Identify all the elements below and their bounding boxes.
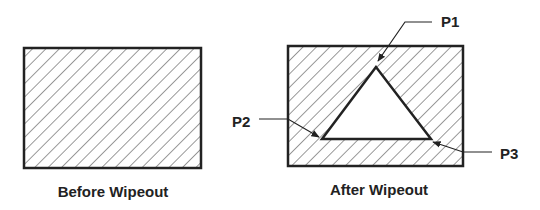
before-panel: Before Wipeout [24,48,201,200]
p1-label: P1 [441,13,459,30]
before-caption: Before Wipeout [58,183,169,200]
after-panel: P1 P2 P3 After Wipeout [232,13,518,198]
wipeout-diagram: Before Wipeout P1 P2 P3 After Wipeout [0,0,540,210]
p3-label: P3 [500,145,518,162]
after-caption: After Wipeout [330,181,428,198]
hatched-rectangle [24,48,201,168]
p2-label: P2 [232,113,250,130]
